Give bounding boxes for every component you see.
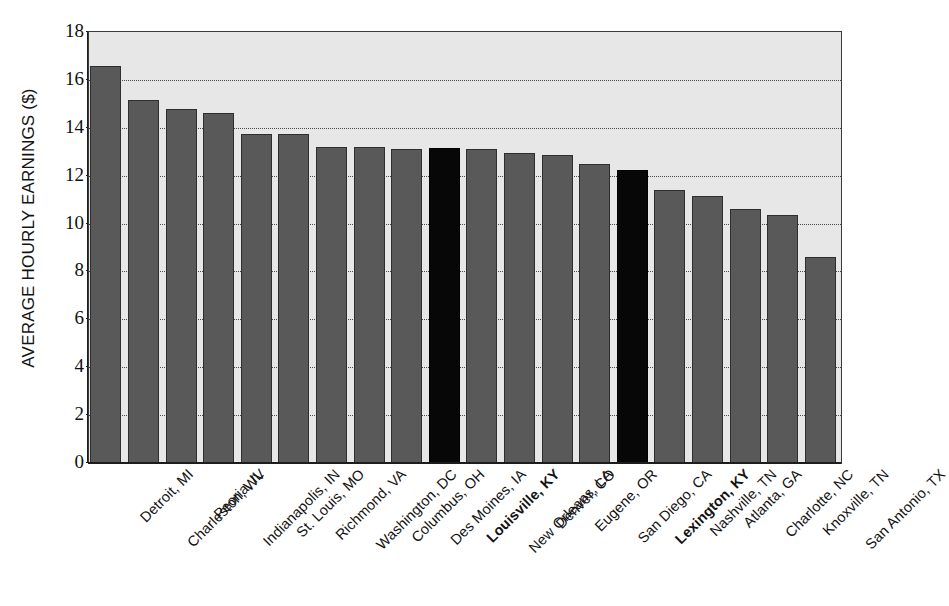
bar: [805, 257, 836, 463]
bar-series: [89, 32, 841, 463]
y-tick-label: 12: [40, 165, 84, 184]
bar: [90, 66, 121, 463]
plot-area: [88, 31, 842, 464]
y-tick-label: 2: [40, 404, 84, 423]
bar: [542, 155, 573, 463]
bar: [466, 149, 497, 463]
x-tick-label: Detroit, MI: [137, 466, 196, 525]
bar: [166, 109, 197, 463]
bar: [429, 148, 460, 463]
y-tick-label: 14: [40, 117, 84, 136]
bar: [579, 164, 610, 463]
plot-clip: [89, 32, 841, 463]
bar: [354, 147, 385, 463]
bar: [391, 149, 422, 463]
bar: [316, 147, 347, 463]
x-axis-line: [88, 462, 841, 464]
bar: [241, 134, 272, 463]
bar: [767, 215, 798, 463]
bar: [504, 153, 535, 463]
y-tick-label: 0: [40, 452, 84, 471]
bar: [278, 134, 309, 463]
bar: [654, 190, 685, 463]
bar: [128, 100, 159, 463]
x-axis-labels: Detroit, MICharleston, WVPeoria, ILIndia…: [88, 466, 856, 606]
bar: [692, 196, 723, 463]
y-tick-label: 16: [40, 69, 84, 88]
y-tick-label: 6: [40, 308, 84, 327]
x-tick-label: Peoria, IL: [210, 466, 266, 522]
y-tick-label: 18: [40, 21, 84, 40]
bar: [203, 113, 234, 463]
y-tick-label: 4: [40, 356, 84, 375]
y-tick-label: 10: [40, 213, 84, 232]
bar: [617, 170, 648, 463]
bar: [730, 209, 761, 463]
y-tick-label: 8: [40, 260, 84, 279]
y-axis-ticks: 181614121086420: [20, 0, 84, 606]
